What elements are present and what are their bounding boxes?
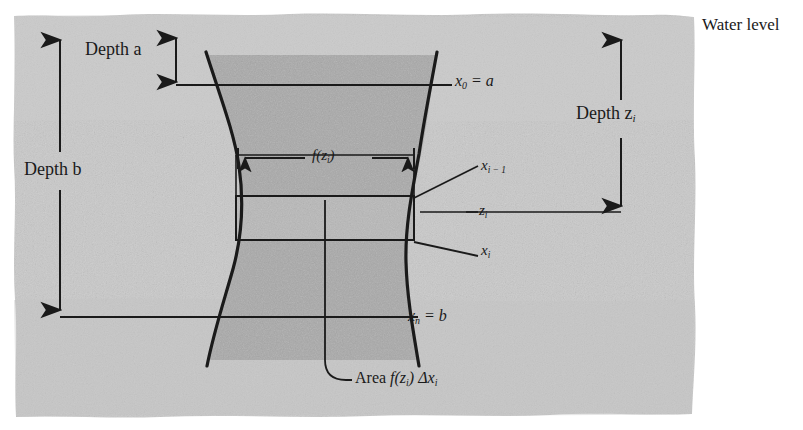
- z-i-label: zi: [479, 203, 487, 220]
- xn-rest: = b: [420, 307, 447, 324]
- x-i-minus-1-subscript: i − 1: [488, 165, 506, 175]
- area-delta: Δx: [418, 369, 435, 386]
- area-prefix: Area: [355, 369, 390, 386]
- x-i-subscript: i: [488, 250, 491, 260]
- area-f-close: ): [409, 369, 418, 386]
- depth-b-text: Depth b: [24, 159, 82, 179]
- z-i-subscript: i: [485, 210, 488, 220]
- x0-equals-a-label: x0 = a: [455, 73, 494, 91]
- fzi-label: f(zi): [312, 148, 335, 165]
- x-i-minus-1-label: xi − 1: [481, 158, 506, 175]
- fzi-close: ): [330, 147, 335, 163]
- depth-zi-label: Depth zi: [576, 104, 636, 124]
- depth-zi-text: Depth z: [576, 103, 632, 123]
- depth-zi-subscript: i: [632, 112, 635, 124]
- x-i-minus-1-symbol: x: [481, 157, 488, 173]
- depth-b-label: Depth b: [24, 160, 82, 178]
- xn-equals-b-label: xn = b: [408, 308, 447, 326]
- depth-a-label: Depth a: [85, 40, 141, 58]
- area-f-open: f(z: [390, 369, 406, 386]
- water-level-label: Water level: [702, 16, 779, 33]
- depth-a-text: Depth a: [85, 39, 141, 59]
- fzi-open: f(z: [312, 147, 327, 163]
- area-delta-subscript: i: [435, 377, 438, 388]
- x-i-symbol: x: [481, 242, 488, 258]
- x-i-label: xi: [481, 243, 490, 260]
- x0-rest: = a: [467, 72, 494, 89]
- fluid-force-diagram: [0, 0, 803, 430]
- area-label: Area f(zi) Δxi: [355, 370, 437, 388]
- figure-canvas: Water level Depth a Depth b Depth zi x0 …: [0, 0, 803, 430]
